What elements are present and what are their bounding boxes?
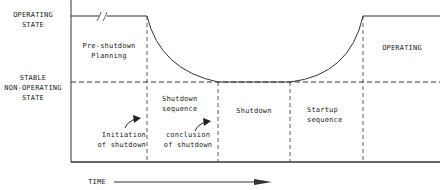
label-line: Startup — [307, 105, 363, 115]
arrowhead-icon — [254, 179, 272, 185]
label-line: conclusion — [158, 130, 218, 140]
operating-state-label: OPERATING STATE — [0, 10, 66, 30]
label-line: of shutdown — [84, 140, 146, 150]
arrowhead-icon — [203, 118, 211, 126]
label-line: Shutdown — [219, 106, 289, 116]
stable-state-label: STABLE NON-OPERATING STATE — [0, 73, 66, 103]
phase-shutdown: Shutdown — [219, 106, 289, 116]
label-line: STATE — [0, 93, 66, 103]
label-line: Shutdown — [162, 94, 210, 104]
phase-shutdown-sequence: Shutdown sequence — [148, 94, 210, 114]
label-line: of shutdown — [158, 140, 218, 150]
label-line: Pre-shutdown — [74, 41, 144, 51]
time-label: TIME — [82, 177, 112, 187]
initiation-annotation: Initiation of shutdown — [84, 130, 146, 150]
label-line: sequence — [162, 104, 210, 114]
label-line: OPERATING — [0, 10, 66, 20]
label-line: OPERATING — [364, 43, 440, 53]
state-diagram — [0, 0, 440, 190]
arrowhead-icon — [133, 115, 141, 123]
phase-operating: OPERATING — [364, 43, 440, 53]
conclusion-annotation: conclusion of shutdown — [158, 130, 218, 150]
phase-pre-shutdown: Pre-shutdown Planning — [74, 41, 144, 61]
label-line: Planning — [74, 51, 144, 61]
phase-startup-sequence: Startup sequence — [291, 105, 363, 125]
label-line: Initiation — [84, 130, 146, 140]
label-line: sequence — [307, 115, 363, 125]
label-line: STABLE — [0, 73, 66, 83]
label-line: STATE — [0, 20, 66, 30]
label-line: NON-OPERATING — [0, 83, 66, 93]
